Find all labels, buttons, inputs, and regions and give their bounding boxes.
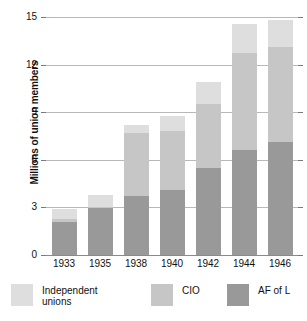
bar-segment-1942-cio[interactable] <box>196 104 221 167</box>
legend-item-independent-unions[interactable]: Independent unions <box>11 284 98 307</box>
legend-item-cio[interactable]: CIO <box>151 284 200 306</box>
y-tick-mark-right-0 <box>298 255 303 256</box>
bar-group-1942[interactable] <box>196 17 221 255</box>
bar-group-1940[interactable] <box>160 17 185 255</box>
x-tick-label-1942: 1942 <box>190 258 226 269</box>
y-tick-mark-0 <box>41 255 46 256</box>
bar-group-1935[interactable] <box>88 17 113 255</box>
bar-segment-1935-independent-unions[interactable] <box>88 195 113 207</box>
bar-group-1938[interactable] <box>124 17 149 255</box>
legend-label-independent-unions: Independent unions <box>42 284 98 307</box>
bar-segment-1944-af-of-l[interactable] <box>232 150 257 256</box>
bar-segment-1942-independent-unions[interactable] <box>196 82 221 104</box>
y-tick-mark-right-6 <box>298 160 303 161</box>
x-tick-label-1935: 1935 <box>82 258 118 269</box>
bar-segment-1938-cio[interactable] <box>124 133 149 196</box>
legend-swatch-independent-unions <box>11 284 33 306</box>
x-tick-label-1933: 1933 <box>46 258 82 269</box>
y-tick-label-12: 12 <box>11 59 37 70</box>
bar-segment-1938-independent-unions[interactable] <box>124 125 149 133</box>
chart-legend: Independent unionsCIOAF of L <box>11 284 301 318</box>
bar-segment-1946-af-of-l[interactable] <box>268 142 293 255</box>
bar-segment-1940-af-of-l[interactable] <box>160 190 185 255</box>
bar-segment-1933-cio[interactable] <box>52 219 77 222</box>
x-axis-tick-labels: 1933193519381940194219441946 <box>46 258 298 274</box>
y-tick-mark-right-9 <box>298 112 303 113</box>
y-tick-mark-right-12 <box>298 65 303 66</box>
bar-segment-1944-cio[interactable] <box>232 53 257 150</box>
x-tick-label-1946: 1946 <box>262 258 298 269</box>
bar-group-1933[interactable] <box>52 17 77 255</box>
y-tick-label-15: 15 <box>11 11 37 22</box>
y-tick-label-9: 9 <box>11 106 37 117</box>
legend-label-af-of-l: AF of L <box>258 284 290 296</box>
plot-area: 03691215 <box>46 17 298 255</box>
bar-segment-1933-af-of-l[interactable] <box>52 222 77 255</box>
legend-swatch-cio <box>151 284 173 306</box>
y-axis-title: Millions of union members <box>29 28 40 218</box>
legend-swatch-af-of-l <box>227 284 249 306</box>
bars-layer <box>46 17 298 255</box>
bar-segment-1935-cio[interactable] <box>88 207 113 208</box>
y-tick-mark-right-3 <box>298 207 303 208</box>
bar-segment-1946-independent-unions[interactable] <box>268 20 293 47</box>
bar-group-1946[interactable] <box>268 17 293 255</box>
bar-segment-1933-independent-unions[interactable] <box>52 209 77 219</box>
bar-group-1944[interactable] <box>232 17 257 255</box>
bar-segment-1940-cio[interactable] <box>160 131 185 190</box>
y-tick-label-6: 6 <box>11 154 37 165</box>
bar-segment-1946-cio[interactable] <box>268 47 293 142</box>
union-membership-stacked-bar-chart: Millions of union members 03691215 19331… <box>0 0 307 321</box>
bar-segment-1935-af-of-l[interactable] <box>88 207 113 255</box>
y-tick-label-0: 0 <box>11 249 37 260</box>
y-tick-mark-right-15 <box>298 17 303 18</box>
legend-item-af-of-l[interactable]: AF of L <box>227 284 290 306</box>
bar-segment-1944-independent-unions[interactable] <box>232 24 257 53</box>
gridline-0 <box>46 255 298 256</box>
legend-label-cio: CIO <box>182 284 200 296</box>
x-tick-label-1944: 1944 <box>226 258 262 269</box>
bar-segment-1940-independent-unions[interactable] <box>160 116 185 131</box>
bar-segment-1938-af-of-l[interactable] <box>124 196 149 255</box>
bar-segment-1942-af-of-l[interactable] <box>196 168 221 255</box>
y-tick-label-3: 3 <box>11 201 37 212</box>
x-tick-label-1938: 1938 <box>118 258 154 269</box>
x-tick-label-1940: 1940 <box>154 258 190 269</box>
